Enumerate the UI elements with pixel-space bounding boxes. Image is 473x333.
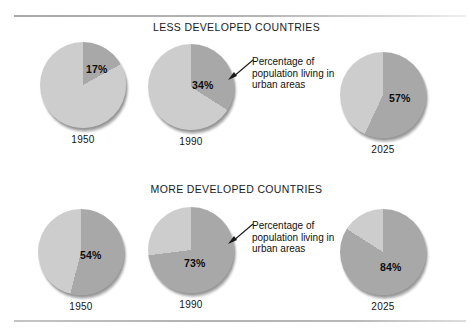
pie-group-more-developed-1990: 73% 1990 bbox=[148, 207, 234, 293]
annotation-line-2: population living in bbox=[252, 68, 334, 80]
pie-slice-area bbox=[340, 209, 426, 295]
pie-value-label: 73% bbox=[184, 257, 206, 269]
pie-chart bbox=[148, 207, 234, 293]
pie-value-label: 54% bbox=[80, 249, 102, 261]
pie-value-label: 34% bbox=[192, 79, 214, 91]
pie-chart bbox=[340, 209, 426, 295]
pie-slice-area bbox=[40, 42, 126, 128]
annotation-more-developed: Percentage of population living in urban… bbox=[252, 220, 334, 255]
pie-slice-area bbox=[148, 207, 234, 293]
annotation-line-1: Percentage of bbox=[252, 220, 334, 232]
pie-group-more-developed-2025: 84% 2025 bbox=[340, 209, 426, 295]
pie-year-label: 2025 bbox=[340, 301, 426, 312]
pie-year-label: 1950 bbox=[38, 301, 124, 312]
pie-group-less-developed-1990: 34% 1990 bbox=[148, 44, 234, 130]
bottom-divider-rule bbox=[14, 320, 466, 322]
pie-year-label: 2025 bbox=[340, 144, 426, 155]
pie-value-label: 84% bbox=[380, 261, 402, 273]
pie-year-label: 1950 bbox=[40, 134, 126, 145]
pie-value-label: 17% bbox=[86, 63, 108, 75]
annotation-arrow-icon bbox=[228, 222, 254, 244]
pie-chart bbox=[40, 42, 126, 128]
pie-value-label: 57% bbox=[389, 92, 411, 104]
annotation-less-developed: Percentage of population living in urban… bbox=[252, 56, 334, 91]
pie-chart bbox=[340, 52, 426, 138]
annotation-line-1: Percentage of bbox=[252, 56, 334, 68]
figure-pie-chart-panel: LESS DEVELOPED COUNTRIES 17% 1950 34% 19… bbox=[0, 0, 473, 333]
annotation-arrow-icon bbox=[228, 58, 254, 80]
pie-group-less-developed-1950: 17% 1950 bbox=[40, 42, 126, 128]
top-divider-rule bbox=[14, 15, 466, 17]
pie-year-label: 1990 bbox=[148, 136, 234, 147]
annotation-line-3: urban areas bbox=[252, 79, 334, 91]
section-title-more-developed: MORE DEVELOPED COUNTRIES bbox=[0, 183, 473, 195]
pie-slice-area bbox=[148, 44, 234, 130]
pie-group-more-developed-1950: 54% 1950 bbox=[38, 209, 124, 295]
section-title-less-developed: LESS DEVELOPED COUNTRIES bbox=[0, 21, 473, 33]
pie-year-label: 1990 bbox=[148, 299, 234, 310]
pie-chart bbox=[148, 44, 234, 130]
annotation-line-3: urban areas bbox=[252, 243, 334, 255]
pie-group-less-developed-2025: 57% 2025 bbox=[340, 52, 426, 138]
annotation-line-2: population living in bbox=[252, 232, 334, 244]
pie-slice-area bbox=[340, 52, 426, 138]
